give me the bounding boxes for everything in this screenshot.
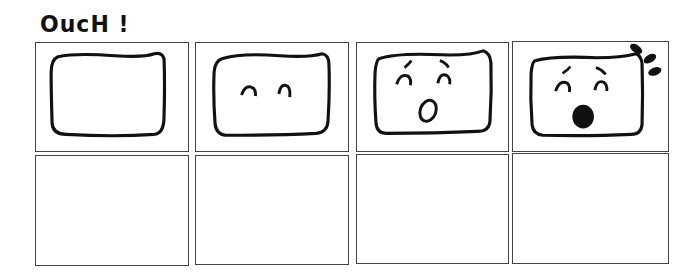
left-eye-icon: [397, 75, 411, 85]
comic-title: OucH !: [40, 11, 130, 37]
right-eye-icon: [438, 75, 450, 84]
right-eyebrow-icon: [596, 68, 606, 75]
panel-5-empty: [35, 155, 189, 266]
blank-face-drawing: [36, 43, 188, 151]
face-shocked-drawing: [513, 42, 668, 151]
right-eyebrow-icon: [440, 61, 449, 68]
panel-7-empty: [356, 154, 509, 264]
right-eye-icon: [279, 85, 290, 97]
left-eyebrow-icon: [563, 67, 571, 74]
panel-4-face-shocked: [512, 41, 669, 152]
panel-2-face-eyes: [195, 42, 349, 152]
panel-6-empty: [195, 155, 349, 265]
left-eyebrow-icon: [405, 61, 412, 68]
panel-3-face-surprised: [356, 42, 509, 152]
face-eyes-drawing: [196, 43, 348, 151]
panel-8-empty: [512, 153, 669, 264]
open-mouth-icon: [417, 98, 439, 124]
left-eye-icon: [242, 87, 256, 96]
impact-marks-icon: [628, 42, 662, 78]
panel-1-blank-face: [35, 42, 189, 152]
filled-mouth-icon: [572, 105, 594, 129]
face-surprised-drawing: [357, 43, 508, 151]
right-eye-icon: [595, 82, 607, 91]
left-eye-icon: [556, 82, 570, 92]
